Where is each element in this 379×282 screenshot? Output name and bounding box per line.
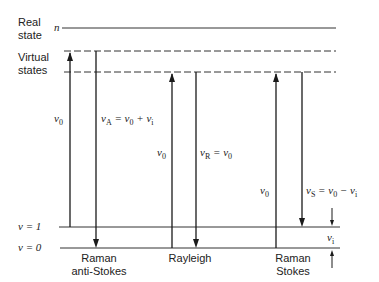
anti-stokes-label-line2: anti-Stokes [71, 265, 126, 278]
v0-label: v = 0 [18, 241, 41, 253]
rayleigh-up-label: ν0 [157, 146, 166, 161]
minus: − [337, 184, 350, 196]
stokes-label-line1: Raman [275, 252, 310, 265]
subscript: 0 [228, 152, 232, 161]
stokes-label: Raman Stokes [275, 252, 310, 278]
energy-level-diagram [0, 0, 379, 282]
stokes-label-line2: Stokes [275, 265, 310, 278]
subscript: 0 [265, 190, 269, 199]
virtual-states-label-line2: states [18, 64, 49, 77]
virtual-states-label-line1: Virtual [18, 51, 49, 64]
equals: = [210, 146, 223, 158]
equals: = [112, 112, 125, 124]
anti-stokes-down-label: νA = ν0 + νi [101, 112, 154, 127]
anti-stokes-label: Raman anti-Stokes [71, 252, 126, 278]
real-state-label: Real state [18, 16, 42, 42]
vi-label: νi [327, 231, 334, 246]
stokes-up-label: ν0 [260, 184, 269, 199]
subscript: i [332, 237, 334, 246]
virtual-states-label: Virtual states [18, 51, 49, 77]
subscript: 0 [59, 118, 63, 127]
subscript: 0 [162, 152, 166, 161]
rayleigh-down-label: νR = ν0 [200, 146, 232, 161]
real-state-label-line1: Real [18, 16, 42, 29]
subscript: i [355, 190, 357, 199]
rayleigh-label: Rayleigh [169, 252, 212, 265]
real-state-label-line2: state [18, 29, 42, 42]
equals: = [315, 184, 328, 196]
real-state-symbol: n [54, 21, 60, 33]
plus: + [134, 112, 147, 124]
stokes-down-label: νS = ν0 − νi [306, 184, 357, 199]
anti-stokes-up-label: ν0 [54, 112, 63, 127]
subscript: i [151, 118, 153, 127]
v1-label: v = 1 [18, 220, 41, 232]
rayleigh-label-line1: Rayleigh [169, 252, 212, 265]
anti-stokes-label-line1: Raman [71, 252, 126, 265]
